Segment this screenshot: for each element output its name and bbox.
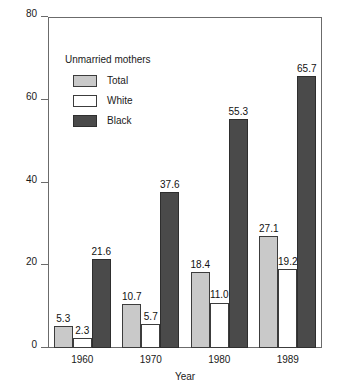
y-tick-mark [41, 99, 48, 100]
bar [191, 272, 210, 348]
y-tick-mark [41, 182, 48, 183]
legend-swatch-icon [73, 115, 97, 127]
bar [92, 259, 111, 348]
bar-value-label: 65.7 [291, 64, 323, 74]
bar-value-label: 27.1 [253, 224, 285, 234]
bar-value-label: 10.7 [116, 292, 148, 302]
bar [297, 76, 316, 348]
bar [73, 338, 92, 348]
bar-value-label: 55.3 [222, 107, 254, 117]
bar-chart: Percent 020406080 5.32.321.610.75.737.61… [0, 0, 340, 390]
legend-title: Unmarried mothers [65, 54, 175, 66]
x-tick-label: 1960 [62, 354, 102, 365]
legend-item: Black [65, 112, 175, 129]
y-tick-label: 60 [26, 92, 37, 102]
legend-item-label: Black [107, 115, 131, 126]
legend-swatch-icon [73, 75, 97, 87]
x-tick-label: 1980 [199, 354, 239, 365]
y-tick-mark [41, 16, 48, 17]
y-tick-mark [41, 347, 48, 348]
bar [160, 192, 179, 348]
legend-entries: TotalWhiteBlack [65, 72, 175, 129]
bar [122, 304, 141, 348]
legend-item-label: White [107, 95, 133, 106]
y-tick-label: 0 [31, 340, 37, 350]
legend: Unmarried mothers TotalWhiteBlack [65, 54, 175, 132]
x-tick-label: 1970 [131, 354, 171, 365]
x-tick-label: 1989 [268, 354, 308, 365]
bar [210, 303, 229, 349]
x-axis-title: Year [48, 371, 322, 382]
bar [278, 269, 297, 348]
bar [229, 119, 248, 348]
bar [259, 236, 278, 348]
y-tick-label: 40 [26, 175, 37, 185]
legend-item: Total [65, 72, 175, 89]
bar-value-label: 37.6 [154, 180, 186, 190]
y-tick-mark [41, 264, 48, 265]
legend-item-label: Total [107, 75, 128, 86]
y-tick-label: 80 [26, 9, 37, 19]
bar-value-label: 21.6 [85, 247, 117, 257]
bar [141, 324, 160, 348]
legend-swatch-icon [73, 95, 97, 107]
y-tick-label: 20 [26, 257, 37, 267]
bar-value-label: 18.4 [184, 260, 216, 270]
legend-item: White [65, 92, 175, 109]
bar-value-label: 5.3 [47, 314, 79, 324]
